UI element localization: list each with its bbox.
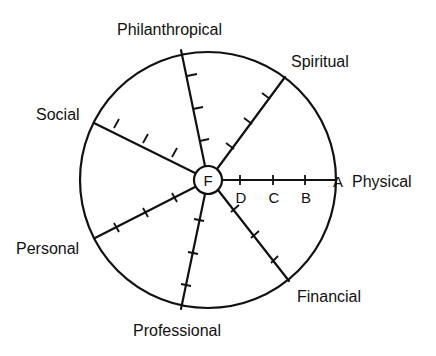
marker-b: B <box>301 189 311 206</box>
label-physical: Physical <box>352 173 412 190</box>
spoke-professional <box>181 194 205 309</box>
spoke-social <box>94 123 195 173</box>
label-social: Social <box>36 106 80 123</box>
label-philanthropical: Philanthropical <box>117 21 222 38</box>
marker-c: C <box>269 189 280 206</box>
life-wheel-diagram: F D C B A Philanthropical Spiritual Phys… <box>0 0 436 356</box>
marker-d: D <box>236 189 247 206</box>
label-professional: Professional <box>133 322 221 339</box>
marker-a: A <box>333 173 343 190</box>
label-financial: Financial <box>297 288 361 305</box>
center-label: F <box>203 172 212 189</box>
label-personal: Personal <box>16 240 79 257</box>
label-spiritual: Spiritual <box>291 53 349 70</box>
